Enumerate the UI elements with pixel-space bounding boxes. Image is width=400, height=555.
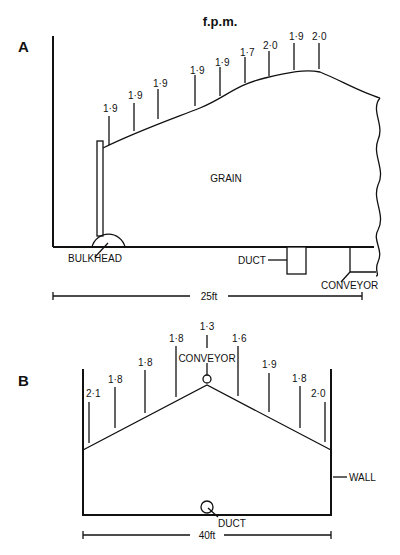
reading: 1·8 bbox=[138, 357, 153, 368]
wall-label: WALL bbox=[349, 472, 376, 483]
bin-walls bbox=[83, 369, 331, 515]
reading: 1·8 bbox=[169, 333, 184, 344]
duct-label-b: DUCT bbox=[218, 518, 246, 529]
reading: 2·0 bbox=[312, 31, 327, 42]
reading: 1·9 bbox=[262, 359, 277, 370]
reading: 1·9 bbox=[215, 57, 230, 68]
reading: 1·9 bbox=[153, 78, 168, 89]
diagram-b-label: B bbox=[18, 372, 29, 389]
reading: 1·8 bbox=[292, 373, 307, 384]
grain-break-edge bbox=[376, 98, 381, 276]
diagram-b: B 1·3 CONVEYOR 2·1 1·8 1·8 1·8 1·6 1·9 1… bbox=[18, 321, 376, 541]
reading: 1·9 bbox=[103, 103, 118, 114]
diagram-a: A BULKHEAD GRAIN 1·9 1·9 1·9 1·9 1·9 1·7… bbox=[18, 31, 381, 302]
reading: 1·9 bbox=[289, 31, 304, 42]
units-title: f.p.m. bbox=[203, 14, 238, 29]
diagram-a-label: A bbox=[18, 38, 29, 55]
reading-top: 1·3 bbox=[200, 321, 215, 332]
dimension-40ft: 40ft bbox=[199, 530, 216, 541]
conveyor-label-a: CONVEYOR bbox=[321, 280, 378, 291]
conveyor-a bbox=[350, 247, 376, 272]
duct-label-a: DUCT bbox=[238, 255, 266, 266]
reading: 1·6 bbox=[232, 333, 247, 344]
duct-a bbox=[287, 247, 306, 274]
grain-label: GRAIN bbox=[210, 173, 242, 184]
bulkhead-label: BULKHEAD bbox=[68, 253, 122, 264]
grain-peak bbox=[83, 385, 331, 450]
reading: 2·1 bbox=[86, 388, 101, 399]
reading: 1·8 bbox=[108, 374, 123, 385]
reading: 1·9 bbox=[128, 90, 143, 101]
dimension-25ft: 25ft bbox=[201, 291, 218, 302]
readings-a: 1·9 1·9 1·9 1·9 1·9 1·7 2·0 1·9 2·0 bbox=[103, 31, 327, 145]
conveyor-b bbox=[203, 375, 211, 383]
reading: 2·0 bbox=[263, 40, 278, 51]
reading: 1·7 bbox=[240, 47, 255, 58]
grain-airflow-diagram: f.p.m. A BULKHEAD GRAIN 1·9 1·9 1·9 1·9 … bbox=[0, 0, 400, 555]
reading: 2·0 bbox=[311, 388, 326, 399]
reading: 1·9 bbox=[190, 65, 205, 76]
grain-surface bbox=[103, 71, 380, 148]
bulkhead-post bbox=[97, 141, 103, 236]
conveyor-label-b: CONVEYOR bbox=[178, 353, 235, 364]
